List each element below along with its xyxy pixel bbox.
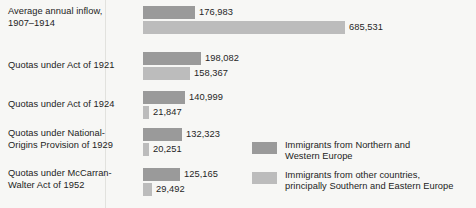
bar-value-label: 21,847: [149, 106, 182, 119]
bar-row: 21,847: [143, 106, 223, 119]
legend-swatch-icon: [252, 172, 277, 184]
bar-value-label: 29,492: [152, 183, 185, 196]
category-label-line: Quotas under National-: [8, 128, 140, 140]
bar-row: 685,531: [143, 21, 383, 34]
bar-value-label: 140,999: [185, 91, 223, 104]
bar-group: 132,32320,251: [143, 128, 220, 158]
bar-northern-western-europe: [143, 168, 180, 181]
bar-row: 125,165: [143, 168, 218, 181]
bar-northern-western-europe: [143, 91, 185, 104]
legend-item: Immigrants from other countries,principa…: [252, 170, 470, 193]
legend-swatch-icon: [252, 142, 277, 154]
bar-other-countries: [143, 67, 190, 80]
bar-value-label: 198,082: [201, 52, 239, 65]
bar-value-label: 125,165: [180, 168, 218, 181]
legend-item: Immigrants from Northern andWestern Euro…: [252, 140, 470, 163]
category-label: Quotas under Act of 1924: [8, 99, 140, 111]
bar-group: 176,983685,531: [143, 6, 383, 36]
bar-northern-western-europe: [143, 6, 195, 19]
bar-northern-western-europe: [143, 52, 201, 65]
bar-other-countries: [143, 21, 345, 34]
legend-label-line: principally Southern and Eastern Europe: [285, 181, 470, 192]
category-label-line: Quotas under Act of 1921: [8, 60, 140, 72]
category-label-line: Walter Act of 1952: [8, 180, 140, 192]
legend-label-line: Immigrants from Northern and: [285, 140, 470, 151]
category-label: Quotas under Act of 1921: [8, 60, 140, 72]
bar-group: 125,16529,492: [143, 168, 218, 198]
category-label: Average annual inflow,1907–1914: [8, 6, 140, 29]
bar-northern-western-europe: [143, 128, 182, 141]
legend-label: Immigrants from other countries,principa…: [285, 170, 470, 193]
category-label-line: Origins Provision of 1929: [8, 140, 140, 152]
bar-row: 158,367: [143, 67, 239, 80]
bar-row: 176,983: [143, 6, 383, 19]
category-label: Quotas under McCarran-Walter Act of 1952: [8, 168, 140, 191]
bar-row: 198,082: [143, 52, 239, 65]
category-label-line: Average annual inflow,: [8, 6, 140, 18]
immigration-quota-bar-chart: Average annual inflow,1907–1914176,98368…: [0, 0, 476, 208]
bar-value-label: 685,531: [345, 21, 383, 34]
bar-row: 132,323: [143, 128, 220, 141]
bar-group: 198,082158,367: [143, 52, 239, 82]
legend-label-line: Immigrants from other countries,: [285, 170, 470, 181]
bar-row: 20,251: [143, 143, 220, 156]
category-label-line: Quotas under Act of 1924: [8, 99, 140, 111]
bar-group: 140,99921,847: [143, 91, 223, 121]
chart-legend: Immigrants from Northern andWestern Euro…: [252, 140, 470, 200]
bar-value-label: 20,251: [149, 143, 182, 156]
bar-value-label: 176,983: [195, 6, 233, 19]
bar-row: 29,492: [143, 183, 218, 196]
bar-value-label: 158,367: [190, 67, 228, 80]
category-label: Quotas under National-Origins Provision …: [8, 128, 140, 151]
legend-label: Immigrants from Northern andWestern Euro…: [285, 140, 470, 163]
category-label-line: 1907–1914: [8, 18, 140, 30]
bar-row: 140,999: [143, 91, 223, 104]
legend-label-line: Western Europe: [285, 151, 470, 162]
category-label-line: Quotas under McCarran-: [8, 168, 140, 180]
bar-other-countries: [143, 183, 152, 196]
bar-value-label: 132,323: [182, 128, 220, 141]
